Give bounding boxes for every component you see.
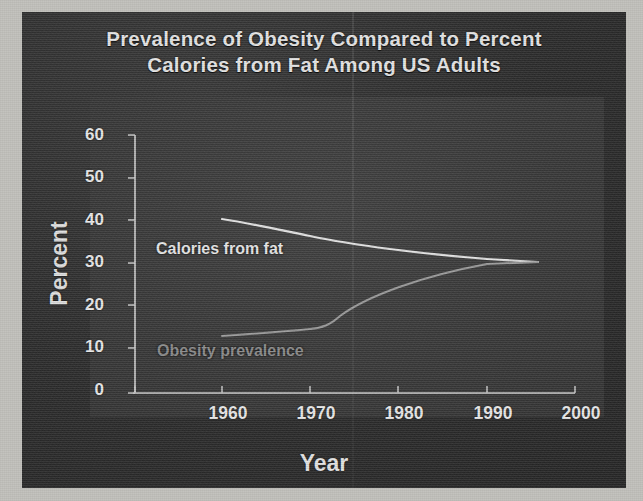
x-tick-marks — [135, 386, 575, 393]
series-label-calories-from-fat: Calories from fat — [156, 240, 283, 258]
chart-title: Prevalence of Obesity Compared to Percen… — [22, 26, 626, 78]
chart-title-line-2: Calories from Fat Among US Adults — [22, 52, 626, 78]
x-axis-title: Year — [22, 450, 626, 477]
y-axis-title: Percent — [46, 184, 73, 344]
slide-card: Prevalence of Obesity Compared to Percen… — [22, 12, 626, 488]
line-chart: Percent 60 50 40 30 20 10 0 1960 1970 19… — [22, 12, 626, 488]
chart-svg — [22, 12, 626, 488]
y-tick-marks — [128, 135, 135, 393]
series-label-obesity-prevalence: Obesity prevalence — [157, 342, 304, 360]
series-line-obesity-prevalence — [222, 262, 538, 336]
chart-title-line-1: Prevalence of Obesity Compared to Percen… — [22, 26, 626, 52]
photo-frame: Prevalence of Obesity Compared to Percen… — [0, 0, 643, 501]
